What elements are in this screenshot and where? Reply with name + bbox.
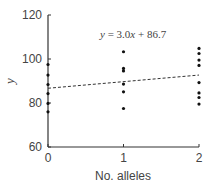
y-tick-label: 100 — [22, 52, 42, 66]
data-point — [197, 64, 200, 67]
regression-dashed-line — [48, 75, 199, 88]
regression-equation: y = 3.0x + 86.7 — [99, 28, 167, 40]
data-point — [46, 102, 49, 105]
data-point — [197, 81, 200, 84]
y-tick-label: 60 — [29, 140, 43, 154]
data-point — [122, 69, 125, 72]
data-point — [46, 92, 49, 95]
data-point — [46, 63, 49, 66]
data-point — [197, 96, 200, 99]
regression-line — [48, 75, 199, 88]
data-point — [197, 52, 200, 55]
y-tick-label: 120 — [22, 8, 42, 22]
data-point — [197, 47, 200, 50]
data-point — [197, 91, 200, 94]
data-point — [197, 59, 200, 62]
data-point — [46, 83, 49, 86]
x-axis-label: No. alleles — [95, 169, 151, 183]
data-point — [197, 103, 200, 106]
scatter-chart: 6080100120012 y = 3.0x + 86.7 No. allele… — [0, 0, 213, 189]
y-axis-label: y — [2, 78, 17, 86]
data-point — [122, 82, 125, 85]
x-tick-label: 1 — [120, 151, 127, 165]
data-point — [122, 50, 125, 53]
data-points — [46, 47, 200, 114]
data-point — [46, 73, 49, 76]
data-point — [122, 107, 125, 110]
x-tick-label: 2 — [196, 151, 203, 165]
y-tick-label: 80 — [29, 96, 43, 110]
data-point — [122, 90, 125, 93]
data-point — [46, 110, 49, 113]
x-tick-label: 0 — [45, 151, 52, 165]
